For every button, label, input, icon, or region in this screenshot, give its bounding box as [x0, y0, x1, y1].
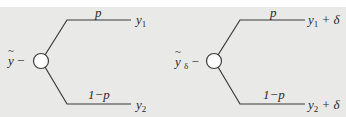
root-label: y ~ δ − — [175, 55, 199, 68]
lower-outcome-label: y2 + δ — [308, 98, 340, 111]
outcome-subscript: 2 — [142, 104, 147, 114]
lower-probability-label: 1−p — [263, 88, 285, 101]
outcome-suffix: + δ — [318, 97, 339, 112]
outcome-suffix: + δ — [318, 12, 339, 27]
right-tree-branches — [218, 20, 305, 104]
upper-outcome-label: y1 + δ — [308, 13, 340, 26]
lower-branch-line — [218, 67, 305, 104]
tree-lines — [0, 0, 346, 117]
figure: y ~ − p y1 1−p y2 y ~ δ − p y1 + δ 1−p y… — [0, 0, 346, 117]
chance-node-icon — [207, 54, 222, 69]
outcome-subscript: 1 — [142, 19, 147, 29]
root-label: y ~ − — [8, 54, 24, 67]
root-subscript: δ — [184, 61, 188, 71]
upper-branch-line — [218, 20, 305, 55]
upper-probability-label: p — [270, 6, 277, 19]
chance-node-icon — [34, 54, 49, 69]
lower-outcome-label: y2 — [136, 98, 146, 111]
root-dash: − — [192, 54, 199, 69]
tilde-mark: ~ — [175, 46, 181, 57]
upper-branch-line — [45, 20, 131, 55]
lower-probability-label: 1−p — [88, 88, 110, 101]
upper-outcome-label: y1 — [136, 13, 146, 26]
upper-probability-label: p — [95, 6, 102, 19]
tilde-mark: ~ — [8, 45, 14, 56]
root-dash: − — [17, 53, 24, 68]
